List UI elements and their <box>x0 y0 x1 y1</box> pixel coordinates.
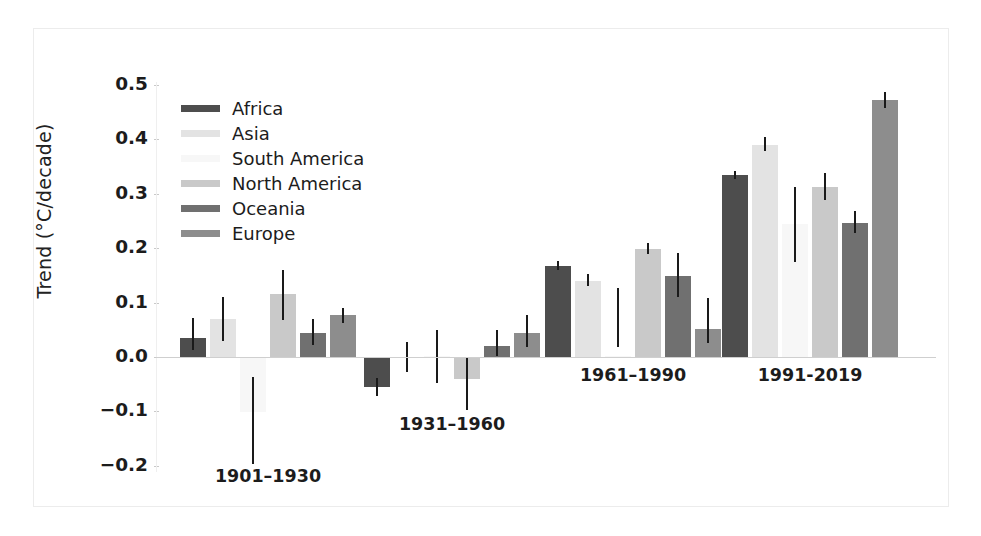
error-bar <box>282 270 284 320</box>
error-bar <box>312 319 314 345</box>
error-bar <box>342 308 344 323</box>
y-tick-label: 0.5 <box>92 73 148 94</box>
legend-swatch-icon <box>181 205 220 212</box>
error-bar <box>526 315 528 347</box>
y-tick-label: 0.2 <box>92 236 148 257</box>
legend-item-south-america[interactable]: South America <box>181 146 364 171</box>
legend-label: South America <box>232 148 364 169</box>
legend-label: Oceania <box>232 198 306 219</box>
legend-swatch-icon <box>181 180 220 187</box>
error-bar <box>617 288 619 346</box>
error-bar <box>707 298 709 343</box>
legend-swatch-icon <box>181 105 220 112</box>
y-axis-title: Trend (°C/decade) <box>33 101 55 321</box>
error-bar <box>192 318 194 351</box>
zero-baseline <box>156 357 936 358</box>
legend-label: Europe <box>232 223 295 244</box>
figure-container: Trend (°C/decade) 0.50.40.30.20.10.0−0.1… <box>0 0 981 536</box>
error-bar <box>824 173 826 200</box>
error-bar <box>252 377 254 464</box>
x-axis-group-label: 1991-2019 <box>682 365 938 385</box>
legend-item-europe[interactable]: Europe <box>181 221 364 246</box>
y-tick-label: 0.4 <box>92 127 148 148</box>
legend-item-north-america[interactable]: North America <box>181 171 364 196</box>
legend-item-oceania[interactable]: Oceania <box>181 196 364 221</box>
bar <box>752 145 778 357</box>
legend-label: Africa <box>232 98 283 119</box>
x-axis-group-label: 1931–1960 <box>324 414 580 434</box>
error-bar <box>222 297 224 341</box>
error-bar <box>587 274 589 286</box>
legend-label: North America <box>232 173 362 194</box>
y-axis-spine <box>156 82 157 472</box>
legend-swatch-icon <box>181 130 220 137</box>
error-bar <box>854 211 856 233</box>
y-tick-label: 0.3 <box>92 182 148 203</box>
bar-chart-plot-area: Trend (°C/decade) 0.50.40.30.20.10.0−0.1… <box>0 0 981 536</box>
error-bar <box>496 330 498 357</box>
bar <box>842 223 868 357</box>
legend-item-africa[interactable]: Africa <box>181 96 364 121</box>
error-bar <box>557 261 559 270</box>
bar <box>545 266 571 357</box>
bar <box>575 281 601 357</box>
bar <box>812 187 838 357</box>
error-bar <box>884 92 886 108</box>
y-tick-label: −0.1 <box>92 399 148 420</box>
legend-swatch-icon <box>181 230 220 237</box>
error-bar <box>764 137 766 152</box>
bar <box>722 175 748 357</box>
chart-legend: AfricaAsiaSouth AmericaNorth AmericaOcea… <box>181 96 364 246</box>
legend-item-asia[interactable]: Asia <box>181 121 364 146</box>
x-axis-group-label: 1901–1930 <box>140 466 396 486</box>
y-tick-label: 0.0 <box>92 345 148 366</box>
bar <box>635 249 661 357</box>
error-bar <box>376 378 378 396</box>
y-tick-label: 0.1 <box>92 291 148 312</box>
error-bar <box>794 187 796 262</box>
error-bar <box>647 243 649 254</box>
error-bar <box>466 358 468 410</box>
bar <box>872 100 898 357</box>
legend-swatch-icon <box>181 155 220 162</box>
error-bar <box>734 171 736 179</box>
legend-label: Asia <box>232 123 270 144</box>
error-bar <box>677 253 679 297</box>
